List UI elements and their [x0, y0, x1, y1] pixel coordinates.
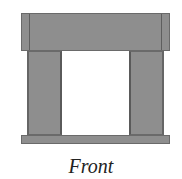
base	[21, 135, 170, 144]
top-beam-right-edge-line	[161, 14, 162, 50]
top-beam	[21, 13, 170, 51]
right-leg	[129, 51, 164, 135]
view-caption: Front	[0, 154, 182, 178]
front-view-diagram: Front	[0, 0, 182, 179]
left-leg	[27, 51, 62, 135]
top-beam-left-edge-line	[29, 14, 30, 50]
